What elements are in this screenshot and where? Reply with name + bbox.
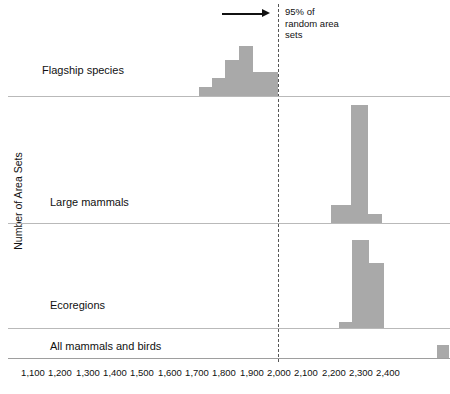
- histogram-chart: Number of Area Sets 95% of random area s…: [0, 0, 450, 394]
- panel-label-large-mammals: Large mammals: [50, 196, 129, 208]
- panel-label-ecoregions: Ecoregions: [50, 299, 105, 311]
- x-tick-label: 2,300: [349, 367, 373, 378]
- percentile-threshold-line: [278, 4, 279, 362]
- bar: [199, 87, 212, 96]
- x-tick-label: 1,900: [240, 367, 264, 378]
- bar: [369, 263, 384, 328]
- bar: [253, 72, 278, 96]
- bar: [239, 46, 253, 96]
- bar: [212, 78, 225, 96]
- x-tick-label: 1,200: [48, 367, 72, 378]
- bar: [331, 205, 351, 223]
- x-tick-label: 1,100: [21, 367, 45, 378]
- bar: [225, 60, 239, 96]
- x-tick-label: 1,700: [185, 367, 209, 378]
- x-tick-label: 1,500: [130, 367, 154, 378]
- bar: [351, 105, 368, 223]
- bar: [368, 214, 382, 223]
- panel-baseline-ecoregions: [8, 328, 450, 329]
- x-tick-label: 2,000: [267, 367, 291, 378]
- panel-label-flagship-species: Flagship species: [42, 64, 124, 76]
- x-tick-label: 2,100: [294, 367, 318, 378]
- x-tick-label: 1,400: [103, 367, 127, 378]
- bar: [352, 240, 369, 328]
- x-tick-label: 2,400: [376, 367, 400, 378]
- annotation-arrow-head: [262, 9, 270, 17]
- annotation-arrow-shaft: [222, 13, 264, 15]
- panel-baseline-flagship-species: [8, 96, 450, 97]
- panel-label-all-mammals-and-birds: All mammals and birds: [50, 340, 161, 352]
- panel-baseline-large-mammals: [8, 223, 450, 224]
- x-tick-label: 2,200: [322, 367, 346, 378]
- annotation-text: 95% of random area sets: [285, 6, 339, 41]
- x-tick-label: 1,800: [212, 367, 236, 378]
- bar: [437, 345, 449, 358]
- x-tick-label: 1,300: [76, 367, 100, 378]
- x-axis-line: [8, 358, 450, 359]
- y-axis-title: Number of Area Sets: [12, 131, 24, 271]
- x-tick-label: 1,600: [158, 367, 182, 378]
